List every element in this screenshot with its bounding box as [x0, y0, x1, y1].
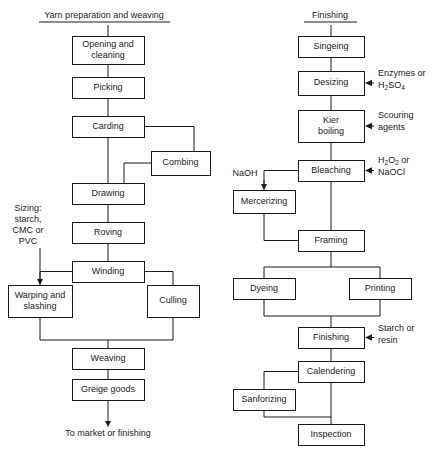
- annotation-naoh: NaOH: [232, 168, 257, 178]
- process-flow-diagram: Opening andcleaningPickingCardingCombing…: [0, 0, 438, 454]
- annotation-arrowhead-naoh: [261, 184, 267, 190]
- node-label-carding: Carding: [92, 121, 124, 131]
- process-node-printing[interactable]: Printing: [350, 279, 412, 300]
- process-node-dyeing[interactable]: Dyeing: [234, 279, 296, 300]
- process-node-framing[interactable]: Framing: [299, 231, 365, 252]
- flowchart-canvas: Opening andcleaningPickingCardingCombing…: [0, 0, 438, 454]
- process-node-opening[interactable]: Opening andcleaning: [73, 37, 145, 65]
- process-node-mercerizing[interactable]: Mercerizing: [234, 191, 296, 214]
- process-node-picking[interactable]: Picking: [73, 78, 145, 99]
- annotation-text-peroxide: NaOCl: [378, 167, 405, 177]
- annotation-text-scouring: Scouring: [378, 110, 414, 120]
- node-label-singeing: Singeing: [313, 41, 348, 51]
- node-label-opening: Opening and: [82, 39, 134, 49]
- process-node-roving[interactable]: Roving: [73, 223, 145, 244]
- node-label-picking: Picking: [93, 82, 122, 92]
- annotation-arrowhead-enzymes: [365, 80, 372, 86]
- process-node-kier[interactable]: Kierboiling: [299, 111, 365, 143]
- edge-warping-culling-merge: [40, 317, 173, 340]
- node-label-framing: Framing: [314, 235, 347, 245]
- node-label-printing: Printing: [365, 283, 396, 293]
- node-label-greige: Greige goods: [81, 384, 136, 394]
- node-label-roving: Roving: [94, 227, 122, 237]
- node-label-weaving: Weaving: [91, 353, 126, 363]
- annotation-text-enzymes: H2SO4: [378, 80, 405, 91]
- annotation-scouring: Scouringagents: [378, 110, 414, 132]
- node-label-warping: Warping and: [15, 290, 66, 300]
- column-title-left: Yarn preparation and weaving: [44, 10, 163, 20]
- process-node-warping[interactable]: Warping andslashing: [9, 286, 73, 318]
- annotation-text-enzymes: Enzymes or: [378, 68, 426, 78]
- process-node-inspection[interactable]: Inspection: [299, 425, 365, 446]
- edge-sanforizing-to-inspection: [264, 410, 331, 417]
- column-header-right: Finishing: [304, 10, 357, 22]
- annotation-text-sizing: PVC: [19, 236, 38, 246]
- annotation-text-sizing: CMC or: [13, 225, 44, 235]
- annotation-text-sizing: Sizing:: [14, 203, 41, 213]
- annotation-starch-resin: Starch orresin: [378, 323, 415, 345]
- node-layer: Opening andcleaningPickingCardingCombing…: [9, 37, 412, 446]
- process-node-weaving[interactable]: Weaving: [73, 349, 145, 370]
- annotation-peroxide: H2O2 orNaOCl: [378, 155, 409, 177]
- annotation-text-naoh: NaOH: [232, 168, 257, 178]
- node-label-drawing: Drawing: [91, 188, 124, 198]
- node-label-calendering: Calendering: [307, 366, 356, 376]
- node-label-finishing: Finishing: [313, 332, 349, 342]
- process-node-calendering[interactable]: Calendering: [299, 362, 365, 383]
- annotation-text-starch-resin: Starch or: [378, 323, 415, 333]
- process-node-drawing[interactable]: Drawing: [73, 184, 145, 205]
- node-label-sanforizing: Sanforizing: [241, 394, 286, 404]
- edge-winding-to-culling: [144, 272, 173, 286]
- annotation-arrowhead-scouring: [365, 123, 372, 129]
- process-node-bleaching[interactable]: Bleaching: [299, 161, 365, 182]
- arrowhead-to-market: [105, 421, 111, 427]
- annotation-text-scouring: agents: [378, 122, 406, 132]
- terminal-label-to-market: To market or finishing: [65, 428, 151, 438]
- annotation-sizing: Sizing:starch,CMC orPVC: [13, 203, 44, 246]
- node-label-desizing: Desizing: [314, 77, 349, 87]
- node-label-bleaching: Bleaching: [311, 165, 351, 175]
- edge-winding-to-warping: [40, 272, 72, 286]
- edge-bleaching-to-mercerizing: [264, 171, 298, 191]
- node-label-kier: boiling: [318, 126, 344, 136]
- edge-mercerizing-to-framing: [264, 213, 298, 241]
- node-label-culling: Culling: [159, 295, 187, 305]
- process-node-finishing[interactable]: Finishing: [299, 328, 365, 349]
- process-node-carding[interactable]: Carding: [73, 117, 145, 138]
- column-title-right: Finishing: [312, 10, 348, 20]
- process-node-culling[interactable]: Culling: [148, 286, 200, 318]
- node-label-mercerizing: Mercerizing: [241, 196, 288, 206]
- node-label-inspection: Inspection: [310, 429, 351, 439]
- edge-calendering-to-sanforizing: [264, 372, 298, 390]
- annotation-arrowhead-starch-resin: [365, 334, 372, 340]
- annotation-text-starch-resin: resin: [378, 335, 398, 345]
- annotation-text-peroxide: H2O2 or: [378, 155, 409, 166]
- annotation-arrowhead-peroxide: [365, 167, 372, 173]
- column-header-left: Yarn preparation and weaving: [39, 10, 170, 22]
- process-node-combing[interactable]: Combing: [152, 152, 211, 176]
- annotation-enzymes: Enzymes orH2SO4: [378, 68, 426, 91]
- node-label-warping: slashing: [23, 301, 56, 311]
- process-node-sanforizing[interactable]: Sanforizing: [234, 390, 296, 411]
- annotation-text-sizing: starch,: [14, 214, 41, 224]
- edge-dyeing-printing-merge: [264, 299, 380, 316]
- process-node-greige[interactable]: Greige goods: [73, 380, 145, 401]
- process-node-winding[interactable]: Winding: [73, 262, 145, 283]
- process-node-desizing[interactable]: Desizing: [299, 72, 365, 96]
- node-label-combing: Combing: [162, 157, 198, 167]
- annotation-arrowhead-sizing: [37, 279, 43, 285]
- node-label-opening: cleaning: [91, 50, 125, 60]
- process-node-singeing[interactable]: Singeing: [299, 37, 365, 58]
- node-label-winding: Winding: [92, 266, 125, 276]
- node-label-dyeing: Dyeing: [250, 283, 278, 293]
- node-label-kier: Kier: [323, 115, 339, 125]
